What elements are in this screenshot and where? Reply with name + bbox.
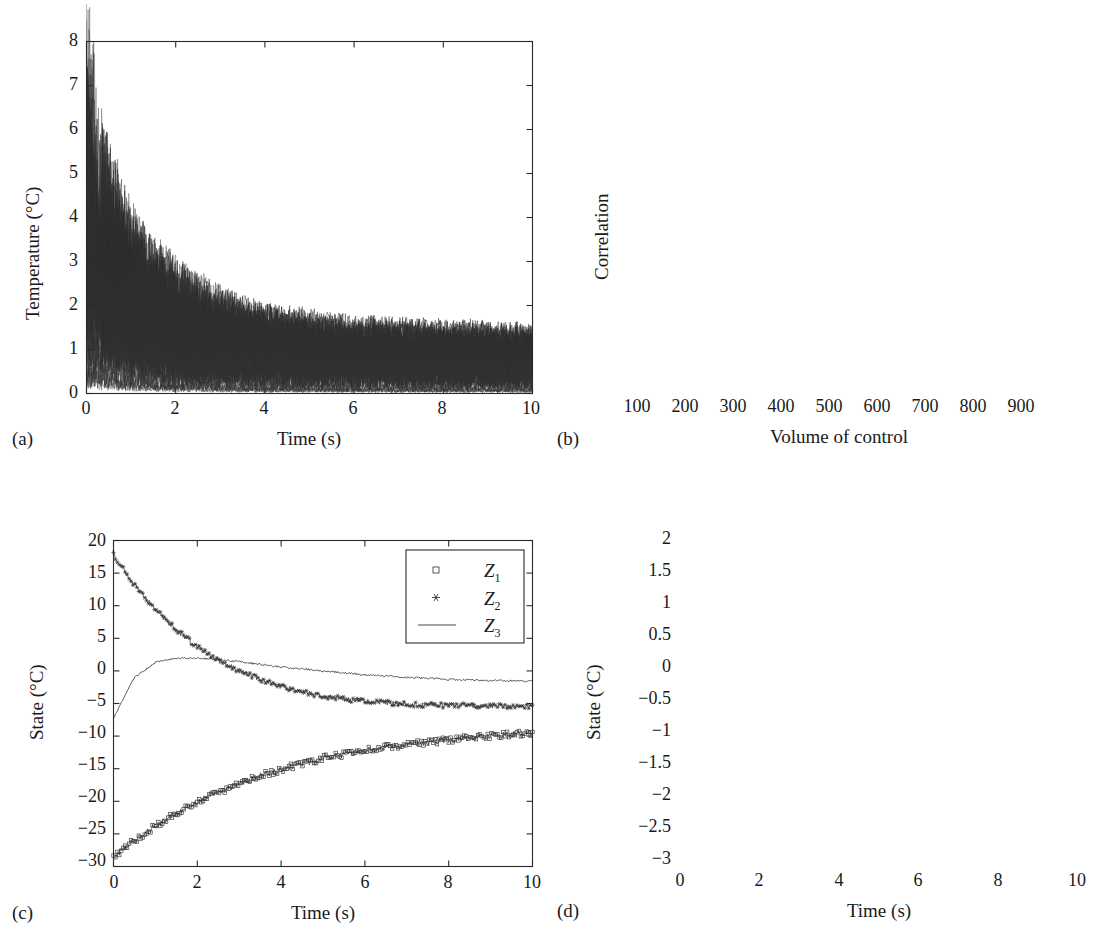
- panel-d-ytick: −1: [603, 720, 671, 741]
- panel-b-xtick: 700: [901, 396, 949, 417]
- panel-d-ytick: 2: [603, 528, 671, 549]
- panel-b-xtick: 500: [805, 396, 853, 417]
- panel-b-x-axis-label: Volume of control: [719, 426, 959, 448]
- panel-d-ytick: 1.5: [603, 560, 671, 581]
- panel-d-xtick: 2: [739, 870, 779, 891]
- panel-d-xtick: 4: [819, 870, 859, 891]
- panel-b-xtick: 300: [709, 396, 757, 417]
- panel-d: State (°C) 2 1.5 1 0.5 0 −0.5 −1 −1.5 −2…: [551, 480, 1102, 951]
- panel-b-xtick: 100: [613, 396, 661, 417]
- panel-d-xtick: 8: [978, 870, 1018, 891]
- panel-d-ytick: −2.5: [603, 816, 671, 837]
- panel-b: Correlation 1 0.8 0.6 0.4 0.2 0 100 200 …: [551, 0, 1102, 480]
- panel-d-ytick: 1: [603, 592, 671, 613]
- figure-four-panel-plots: Temperature (°C) 8 7 6 5 4 3 2 1 0 0 2 4…: [0, 0, 1102, 951]
- panel-b-label: (b): [557, 428, 579, 450]
- panel-d-ytick: −3: [603, 848, 671, 869]
- panel-b-y-axis-label: Correlation: [591, 193, 613, 280]
- panel-b-xtick: 600: [853, 396, 901, 417]
- panel-d-ytick: 0: [603, 656, 671, 677]
- panel-d-x-axis-label: Time (s): [779, 900, 979, 922]
- panel-d-ytick: −0.5: [603, 688, 671, 709]
- panel-d-ytick: −1.5: [603, 752, 671, 773]
- panel-b-xtick: 900: [997, 396, 1045, 417]
- panel-d-label: (d): [557, 900, 579, 922]
- panel-b-xtick: 200: [661, 396, 709, 417]
- panel-d-ytick: −2: [603, 784, 671, 805]
- panel-d-ytick: 0.5: [603, 624, 671, 645]
- panel-d-xtick: 6: [898, 870, 938, 891]
- panel-d-y-axis-label: State (°C): [583, 664, 605, 740]
- panel-d-xtick: 0: [660, 870, 700, 891]
- panel-b-xtick: 800: [949, 396, 997, 417]
- panel-d-xtick: 10: [1057, 870, 1097, 891]
- panel-b-xtick: 400: [757, 396, 805, 417]
